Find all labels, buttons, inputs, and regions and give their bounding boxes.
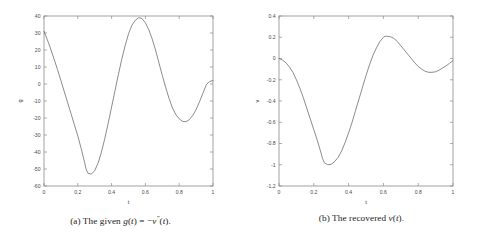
x-tick-label: 0.2 bbox=[74, 189, 81, 195]
x-tick-label: 0 bbox=[43, 189, 46, 195]
y-tick-label: 0.2 bbox=[268, 34, 275, 40]
subfigure-b: 00.20.40.60.81-1.2-1-0.8-0.6-0.4-0.200.2… bbox=[241, 0, 482, 248]
x-tick-label: 1 bbox=[212, 189, 215, 195]
x-tick-label: 1 bbox=[452, 189, 455, 195]
caption-a-lead: (a) The given bbox=[70, 216, 123, 226]
x-tick-label: 0.6 bbox=[380, 189, 387, 195]
x-axis-label: t bbox=[365, 199, 367, 205]
x-tick-label: 0 bbox=[278, 189, 281, 195]
plot-b-canvas: 00.20.40.60.81-1.2-1-0.8-0.6-0.4-0.200.2… bbox=[241, 0, 482, 212]
plot-a-wrapper: 00.20.40.60.81-60-50-40-30-20-1001020304… bbox=[0, 0, 241, 212]
y-tick-label: 20 bbox=[35, 47, 41, 53]
x-tick-label: 0.4 bbox=[108, 189, 115, 195]
y-tick-label: -1 bbox=[271, 162, 276, 168]
y-tick-label: -0.4 bbox=[267, 98, 276, 104]
y-tick-label: 30 bbox=[35, 30, 41, 36]
y-tick-label: 40 bbox=[35, 13, 41, 19]
y-tick-label: 0.4 bbox=[268, 13, 275, 19]
y-tick-label: -10 bbox=[33, 98, 41, 104]
y-tick-label: -30 bbox=[33, 132, 41, 138]
y-tick-label: -40 bbox=[33, 149, 41, 155]
y-tick-label: -20 bbox=[33, 115, 41, 121]
figure-container: 00.20.40.60.81-60-50-40-30-20-1001020304… bbox=[0, 0, 482, 248]
plot-frame bbox=[279, 16, 453, 186]
caption-a: (a) The given g(t) = −v″(t). bbox=[6, 213, 236, 227]
x-tick-label: 0.2 bbox=[310, 189, 317, 195]
caption-b-paren-close: ). bbox=[399, 213, 405, 223]
y-axis-label: g bbox=[17, 99, 23, 102]
subfigure-a: 00.20.40.60.81-60-50-40-30-20-1001020304… bbox=[0, 0, 241, 248]
plot-a-canvas: 00.20.40.60.81-60-50-40-30-20-1001020304… bbox=[0, 0, 241, 212]
x-tick-label: 0.6 bbox=[142, 189, 149, 195]
y-tick-label: -1.2 bbox=[267, 183, 276, 189]
caption-b: (b) The recovered v(t). bbox=[247, 213, 477, 224]
data-curve bbox=[279, 36, 453, 165]
x-tick-label: 0.8 bbox=[415, 189, 422, 195]
y-tick-label: 10 bbox=[35, 64, 41, 70]
caption-b-lead: (b) The recovered bbox=[319, 213, 389, 223]
plot-frame bbox=[44, 16, 213, 186]
plot-b-wrapper: 00.20.40.60.81-1.2-1-0.8-0.6-0.4-0.200.2… bbox=[241, 0, 482, 212]
y-tick-label: 0 bbox=[38, 81, 41, 87]
x-tick-label: 0.4 bbox=[345, 189, 352, 195]
y-tick-label: -50 bbox=[33, 166, 41, 172]
y-tick-label: -0.2 bbox=[267, 77, 276, 83]
y-tick-label: -60 bbox=[33, 183, 41, 189]
caption-a-rhs-paren-close: ). bbox=[165, 216, 171, 226]
y-tick-label: -0.8 bbox=[267, 140, 276, 146]
x-tick-label: 0.8 bbox=[176, 189, 183, 195]
y-axis-label: v bbox=[254, 99, 260, 102]
caption-a-equals: = bbox=[137, 216, 147, 226]
data-curve bbox=[44, 18, 213, 174]
x-axis-label: t bbox=[128, 199, 130, 205]
y-tick-label: -0.6 bbox=[267, 119, 276, 125]
y-tick-label: 0 bbox=[273, 55, 276, 61]
